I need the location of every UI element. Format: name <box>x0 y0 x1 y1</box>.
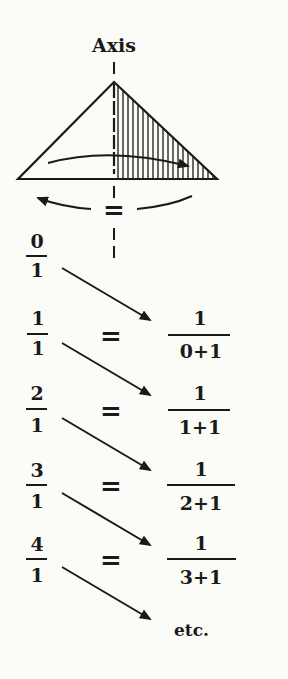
right-numerator: 1 <box>194 458 207 480</box>
right-denominator: 2+1 <box>180 492 222 514</box>
equals-sign: = <box>100 321 122 351</box>
equals-sign: = <box>100 545 122 575</box>
right-denominator: 1+1 <box>179 416 221 438</box>
right-denominator: 0+1 <box>180 340 222 362</box>
fraction-row-2: 2 1 = 1 1+1 <box>26 382 230 438</box>
left-numerator: 2 <box>30 382 43 404</box>
axis-label: Axis <box>91 34 136 56</box>
fraction-row-4: 4 1 = 1 3+1 <box>26 532 236 588</box>
left-denominator: 1 <box>30 259 43 281</box>
left-numerator: 3 <box>30 459 43 481</box>
equals-sign: = <box>100 471 122 501</box>
left-numerator: 1 <box>31 307 44 329</box>
left-denominator: 1 <box>30 490 43 512</box>
rotation-equals-symbol: = <box>103 195 125 225</box>
fraction-row-0: 0 1 <box>26 230 47 281</box>
left-numerator: 4 <box>30 533 43 555</box>
left-denominator: 1 <box>30 564 43 586</box>
fraction-row-3: 3 1 = 1 2+1 <box>26 458 235 514</box>
left-denominator: 1 <box>31 337 44 359</box>
left-numerator: 0 <box>30 230 43 252</box>
left-denominator: 1 <box>30 414 43 436</box>
right-numerator: 1 <box>194 532 207 554</box>
rotating-triangle <box>18 80 217 180</box>
diagram-canvas: Axis <box>0 0 288 679</box>
right-numerator: 1 <box>193 382 206 404</box>
diagonal-arrow-0 <box>62 268 150 320</box>
etc-label: etc. <box>174 620 209 640</box>
equals-sign: = <box>100 396 122 426</box>
fraction-row-1: 1 1 = 1 0+1 <box>27 307 230 362</box>
right-denominator: 3+1 <box>180 566 222 588</box>
right-numerator: 1 <box>193 307 206 329</box>
